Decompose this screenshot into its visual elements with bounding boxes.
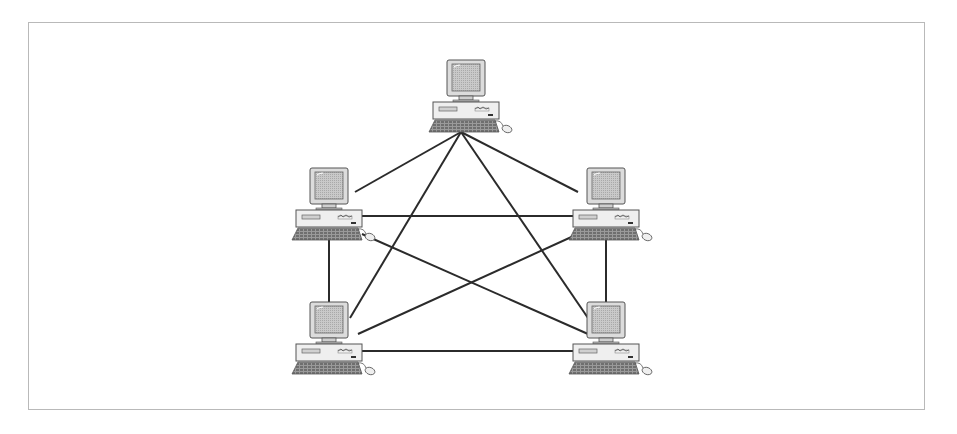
desktop-computer-icon-upper-right: [569, 168, 653, 242]
link-top-lower-right: [461, 132, 588, 318]
link-top-lower-left: [350, 132, 461, 318]
desktop-computer-icon-lower-left: [292, 302, 376, 376]
network-diagram: [0, 0, 957, 434]
desktop-computer-icon-upper-left: [292, 168, 376, 242]
desktop-computer-icon-lower-right: [569, 302, 653, 376]
network-links: [329, 132, 606, 351]
desktop-computer-icon-top: [429, 60, 513, 134]
link-upper-left-lower-right: [362, 234, 588, 334]
link-top-upper-left: [355, 132, 461, 192]
link-top-upper-right: [461, 132, 578, 192]
network-nodes: [292, 60, 653, 376]
